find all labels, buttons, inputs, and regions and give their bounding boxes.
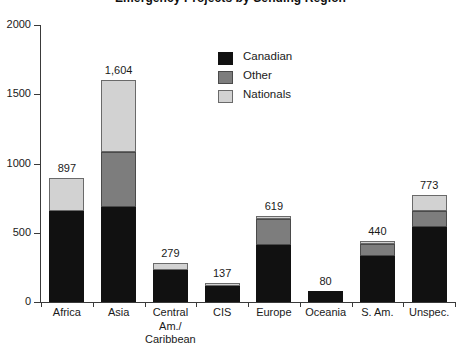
bar-segment-other <box>412 211 447 227</box>
chart-title: Emergency Projects by Sending Region <box>0 0 461 5</box>
y-tick-label-500: 500 <box>0 226 31 238</box>
bar-unspec[interactable] <box>412 195 447 302</box>
legend-label-other: Other <box>243 69 272 81</box>
bar-segment-other <box>101 152 136 207</box>
bar-value-label: 279 <box>140 247 200 259</box>
bar-segment-other <box>360 244 395 256</box>
chart-root: Emergency Projects by Sending Region 050… <box>0 0 461 349</box>
y-tick-label-1000: 1000 <box>0 157 31 169</box>
bar-cis[interactable] <box>205 283 240 302</box>
legend-swatch-nationals <box>218 90 233 103</box>
x-label-line: Unspec. <box>397 306 461 320</box>
bar-asia[interactable] <box>101 80 136 302</box>
bar-oceania[interactable] <box>308 291 343 302</box>
bar-segment-canadian <box>412 227 447 302</box>
bar-segment-canadian <box>101 207 136 302</box>
y-tick-2000 <box>34 25 40 26</box>
x-label-line: Caribbean <box>139 333 203 347</box>
bar-africa[interactable] <box>49 178 84 302</box>
bar-segment-nationals <box>360 241 395 244</box>
bar-segment-nationals <box>205 283 240 286</box>
bar-segment-canadian <box>256 245 291 302</box>
legend-swatch-canadian <box>218 52 233 65</box>
bar-value-label: 1,604 <box>89 64 149 76</box>
bar-segment-canadian <box>49 211 84 302</box>
bar-value-label: 440 <box>347 225 407 237</box>
x-label-unspec: Unspec. <box>397 306 461 320</box>
legend-label-nationals: Nationals <box>243 88 291 100</box>
bar-segment-nationals <box>256 216 291 219</box>
bar-s-am[interactable] <box>360 241 395 302</box>
bar-value-label: 619 <box>244 200 304 212</box>
bar-value-label: 80 <box>296 275 356 287</box>
bar-europe[interactable] <box>256 216 291 302</box>
y-tick-1500 <box>34 94 40 95</box>
y-tick-label-1500: 1500 <box>0 87 31 99</box>
y-tick-label-2000: 2000 <box>0 18 31 30</box>
y-tick-0 <box>34 302 40 303</box>
bar-segment-canadian <box>360 256 395 302</box>
legend-label-canadian: Canadian <box>243 50 292 62</box>
bar-segment-canadian <box>205 286 240 302</box>
bar-value-label: 897 <box>37 162 97 174</box>
bar-segment-nationals <box>49 178 84 212</box>
bar-value-label: 137 <box>192 267 252 279</box>
x-label-line: Am./ <box>139 320 203 334</box>
bar-segment-nationals <box>101 80 136 152</box>
legend-swatch-other <box>218 71 233 84</box>
bar-segment-canadian <box>153 270 188 302</box>
y-tick-label-0: 0 <box>0 295 31 307</box>
bar-central-am-caribbean[interactable] <box>153 263 188 302</box>
y-tick-500 <box>34 233 40 234</box>
bar-segment-nationals <box>153 263 188 270</box>
bar-segment-other <box>256 219 291 245</box>
bar-value-label: 773 <box>399 179 459 191</box>
bar-segment-canadian <box>308 291 343 302</box>
bar-segment-nationals <box>412 195 447 211</box>
